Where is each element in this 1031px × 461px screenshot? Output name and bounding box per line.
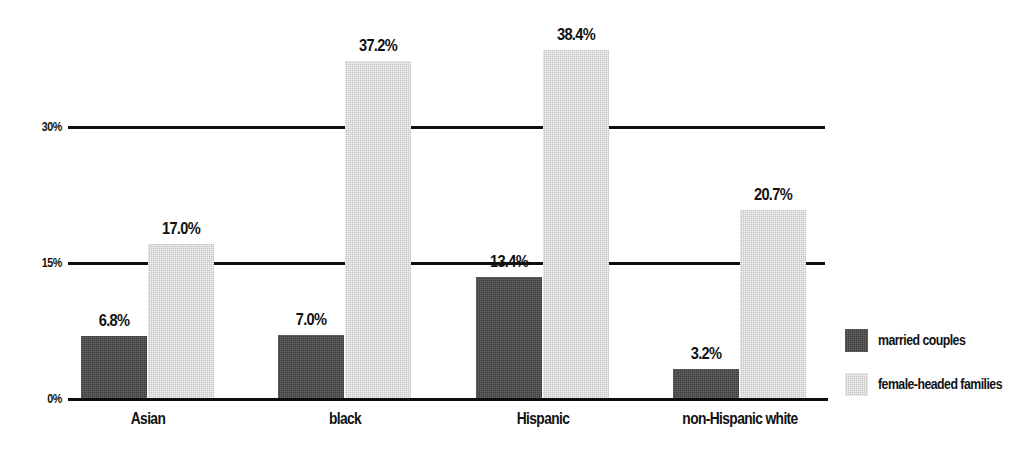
y-axis-tick-15: 15% [0, 255, 62, 271]
legend-label-female-headed-families: female-headed families [878, 376, 1002, 392]
bar-value-label: 3.2% [666, 344, 747, 364]
legend-swatch-dark-gray-icon [845, 329, 868, 352]
category-label-black: black [259, 410, 431, 428]
bar-asian-married-couples [81, 336, 147, 398]
legend-item-female-headed-families[interactable]: female-headed families [845, 369, 1031, 399]
bar-black-married-couples [278, 335, 344, 398]
bar-value-label: 6.8% [74, 311, 155, 331]
bar-value-label: 20.7% [733, 185, 814, 205]
legend-swatch-light-gray-icon [845, 373, 868, 396]
bar-non-hispanic-white-married-couples [673, 369, 739, 398]
bar-hispanic-married-couples [476, 277, 542, 398]
legend-item-married-couples[interactable]: married couples [845, 325, 1031, 355]
y-axis-tick-label-0: 0% [24, 391, 62, 406]
y-axis-tick-label-30: 30% [24, 119, 62, 134]
bar-value-label: 13.4% [469, 252, 550, 272]
category-label-non-hispanic-white: non-Hispanic white [654, 410, 826, 428]
bar-value-label: 37.2% [338, 36, 419, 56]
bar-value-label: 17.0% [141, 219, 222, 239]
bar-value-label: 38.4% [536, 25, 617, 45]
bar-value-label: 7.0% [271, 310, 352, 330]
y-axis-tick-30: 30% [0, 119, 62, 135]
bar-chart: 30% 15% 0% 6.8%17.0%7.0%37.2%13.4%38.4%3… [0, 0, 1031, 461]
bar-asian-female-headed-families [148, 244, 214, 398]
legend-label-married-couples: married couples [878, 332, 965, 348]
category-label-hispanic: Hispanic [457, 410, 629, 428]
bar-non-hispanic-white-female-headed-families [740, 210, 806, 398]
category-label-asian: Asian [62, 410, 234, 428]
gridline-30 [68, 126, 825, 129]
chart-legend: married couples female-headed families [845, 325, 1031, 413]
bar-black-female-headed-families [345, 61, 411, 398]
y-axis-tick-0: 0% [0, 391, 62, 407]
bar-hispanic-female-headed-families [543, 50, 609, 398]
x-axis-baseline [68, 398, 828, 401]
y-axis-tick-label-15: 15% [24, 255, 62, 270]
